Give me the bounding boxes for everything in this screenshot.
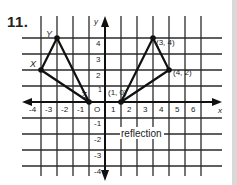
y-axis-down-arrow-icon: [101, 170, 109, 181]
y-axis-up-arrow-icon: [101, 16, 109, 27]
x-tick-label: 3: [143, 105, 148, 114]
y-tick-label: -3: [94, 151, 102, 160]
y-axis-label: y: [93, 17, 99, 26]
x-tick-label: 1: [111, 105, 116, 114]
image-vertex-3-4-label: (3, 4): [156, 38, 175, 47]
x-tick-label: 6: [191, 105, 196, 114]
right-edge-band: [232, 0, 237, 185]
y-axis: [101, 16, 109, 181]
y-tick-label: -2: [94, 135, 102, 144]
y-tick-label: 1: [98, 86, 102, 93]
image-vertex-1-0-label: (1, 0): [108, 88, 127, 97]
vertex-x-label: X: [29, 59, 37, 69]
image-vertex-4-2-label: (4, 2): [173, 68, 192, 77]
x-tick-label: -4: [29, 105, 37, 114]
y-tick-label: 2: [96, 71, 101, 80]
y-tick-label: -4: [94, 167, 102, 176]
x-axis-label: x: [217, 106, 223, 115]
vertex-z-point: [86, 99, 92, 105]
image-vertex-3-4-point: [150, 35, 156, 41]
vertex-y-label: Y: [46, 29, 53, 39]
x-tick-labels: -4 -3 -2 -1 O 1 2 3 4 5 6: [29, 105, 196, 114]
y-tick-label: 4: [96, 39, 101, 48]
image-vertex-1-0-point: [118, 99, 124, 105]
image-vertex-4-2-point: [166, 67, 172, 73]
coordinate-grid: X Y Z (1, 0) (3, 4) (4, 2) y x -4 -3 -2 …: [0, 0, 237, 185]
vertex-x-point: [38, 67, 44, 73]
x-tick-label: 2: [127, 105, 132, 114]
y-tick-label: -1: [94, 119, 102, 128]
vertex-z-label: Z: [80, 90, 87, 100]
x-axis-right-arrow-icon: [212, 98, 222, 106]
x-tick-label: -1: [77, 105, 85, 114]
x-tick-label: -2: [61, 105, 69, 114]
reflection-caption: reflection: [121, 128, 162, 139]
origin-label: O: [94, 105, 100, 114]
x-tick-label: 4: [159, 105, 164, 114]
x-tick-label: -3: [45, 105, 53, 114]
x-tick-label: 5: [175, 105, 180, 114]
y-tick-label: 3: [96, 55, 101, 64]
vertex-y-point: [54, 35, 60, 41]
